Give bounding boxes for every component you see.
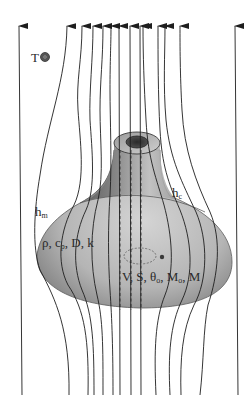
streamline-9 — [140, 26, 141, 395]
state-variables-label: V, S, θo, Mo, M — [122, 270, 200, 285]
mass-transfer-coefficient-label: hm — [35, 205, 48, 220]
central-bore — [126, 136, 148, 148]
streamline-7 — [119, 26, 120, 395]
streamline-8 — [130, 26, 131, 395]
streamline-1 — [19, 26, 22, 395]
sample-point — [160, 255, 164, 259]
heat-transfer-coefficient-label: hc — [172, 186, 182, 201]
infinity-circle-icon — [40, 52, 50, 62]
streamline-14 — [235, 26, 238, 395]
material-properties-label: ρ, cp, D, k — [42, 236, 94, 251]
ambient-temperature-label: T — [31, 51, 50, 64]
